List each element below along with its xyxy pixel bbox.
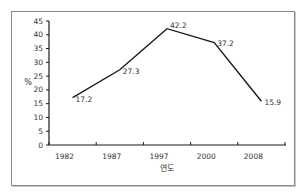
y-tick-label: 15	[33, 99, 43, 108]
x-tick-label: 2000	[197, 152, 216, 161]
y-tick-label: 30	[33, 58, 43, 67]
y-axis-title: %	[24, 78, 32, 87]
y-tick-label: 10	[33, 113, 43, 122]
y-tick-label: 45	[33, 17, 43, 26]
data-label: 27.3	[123, 67, 140, 76]
x-tick-label: 1982	[55, 152, 74, 161]
x-axis-title: 연도	[160, 164, 174, 173]
x-tick-label: 2008	[244, 152, 263, 161]
data-label: 37.2	[217, 39, 234, 48]
y-tick-label: 35	[33, 44, 43, 53]
data-label: 17.2	[76, 95, 93, 104]
y-tick-label: 20	[33, 85, 43, 94]
data-label: 42.2	[170, 21, 187, 30]
x-tick-label: 1987	[102, 152, 121, 161]
y-tick-label: 25	[33, 72, 43, 81]
y-tick-label: 5	[38, 127, 43, 136]
y-tick-label: 0	[38, 141, 43, 150]
data-labels: 17.227.342.237.215.9	[76, 21, 282, 107]
line-chart: 051015202530354045 19821987199720002008 …	[0, 0, 302, 194]
data-label: 15.9	[264, 98, 281, 107]
y-tick-label: 40	[33, 30, 43, 39]
y-axis-ticks: 051015202530354045	[33, 17, 49, 150]
x-tick-label: 1997	[149, 152, 168, 161]
